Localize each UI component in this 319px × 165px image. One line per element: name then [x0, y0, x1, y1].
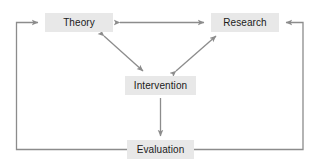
node-intervention[interactable]: Intervention: [125, 76, 196, 95]
node-theory[interactable]: Theory: [45, 13, 113, 32]
node-intervention-label: Intervention: [134, 81, 187, 91]
node-research-label: Research: [223, 18, 267, 28]
node-theory-label: Theory: [63, 18, 95, 28]
node-evaluation-label: Evaluation: [137, 145, 185, 155]
edge-intervention-research: [176, 36, 216, 71]
node-research[interactable]: Research: [211, 13, 279, 32]
edge-theory-intervention: [104, 36, 143, 71]
node-evaluation[interactable]: Evaluation: [127, 140, 194, 159]
diagram-canvas: Theory Research Intervention Evaluation: [0, 0, 319, 165]
